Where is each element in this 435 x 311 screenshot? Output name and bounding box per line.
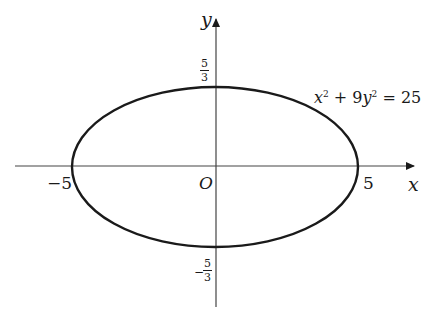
y-pos-tick-label: 5 3 — [200, 58, 209, 83]
eq-rhs: = 25 — [377, 88, 421, 107]
y-neg-denominator: 3 — [204, 272, 211, 283]
eq-x: x — [314, 88, 323, 107]
x-axis-label: x — [408, 175, 419, 194]
origin-label: O — [199, 175, 213, 192]
y-neg-tick-label: − 5 3 — [203, 258, 212, 283]
y-pos-numerator: 5 — [201, 58, 208, 69]
ellipse-diagram — [0, 0, 435, 311]
y-axis-label: y — [201, 10, 212, 29]
y-neg-numerator: 5 — [204, 258, 211, 269]
y-neg-sign: − — [194, 266, 204, 278]
x-neg-tick-label: −5 — [47, 175, 72, 192]
ellipse-curve — [72, 87, 358, 247]
y-pos-denominator: 3 — [201, 72, 208, 83]
eq-plus: + 9 — [329, 88, 363, 107]
eq-y: y — [363, 88, 372, 107]
x-pos-tick-label: 5 — [363, 175, 374, 192]
ellipse-equation: x2 + 9y2 = 25 — [314, 90, 421, 106]
